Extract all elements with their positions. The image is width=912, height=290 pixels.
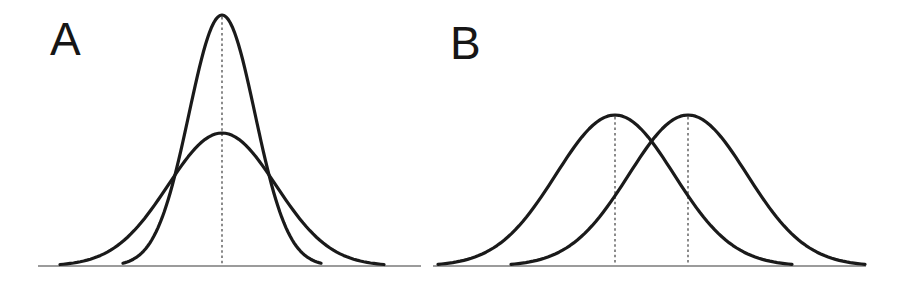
two-panel-distribution-figure: A B xyxy=(0,0,912,290)
panel-a-label: A xyxy=(50,16,81,62)
panel-b-left-curve xyxy=(438,115,792,264)
panel-b-label: B xyxy=(450,20,481,66)
panel-b-right-curve xyxy=(511,115,865,264)
